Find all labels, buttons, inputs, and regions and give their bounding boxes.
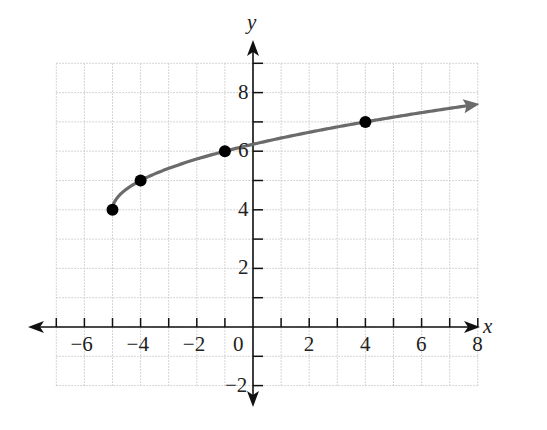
y-tick-label: 2 xyxy=(238,257,249,278)
x-tick-label: −4 xyxy=(127,334,149,355)
data-point xyxy=(359,116,371,128)
data-point xyxy=(135,175,147,187)
coordinate-plane xyxy=(0,0,547,430)
x-tick-label: −6 xyxy=(70,334,92,355)
x-tick-label: 4 xyxy=(360,334,371,355)
axes xyxy=(28,40,480,407)
grid-lines xyxy=(56,63,478,385)
x-tick-label: 6 xyxy=(416,334,427,355)
y-tick-label: 8 xyxy=(238,82,249,103)
y-tick-label: −2 xyxy=(225,375,247,396)
x-tick-label: 2 xyxy=(304,334,315,355)
tick-marks xyxy=(56,63,478,385)
y-tick-label: 6 xyxy=(238,140,249,161)
y-tick-label: 4 xyxy=(238,199,249,220)
data-point xyxy=(107,204,119,216)
x-axis-label: x xyxy=(483,316,492,337)
y-axis-label: y xyxy=(247,12,256,33)
data-point xyxy=(219,145,231,157)
x-tick-label: −2 xyxy=(183,334,205,355)
x-tick-label: 8 xyxy=(472,334,483,355)
x-tick-label: 0 xyxy=(233,334,244,355)
